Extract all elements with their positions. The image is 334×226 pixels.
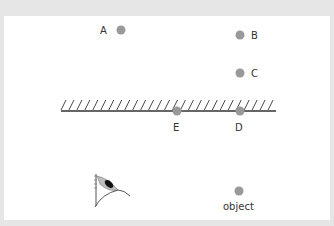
point-label-c: C: [251, 68, 258, 79]
point-label-object: object: [223, 201, 254, 212]
point-label-b: B: [251, 30, 258, 41]
point-object: [235, 187, 244, 196]
point-label-d: D: [235, 122, 243, 133]
point-a: [117, 26, 126, 35]
mirror-diagram: ABCEDobject: [0, 0, 334, 226]
point-d: [236, 107, 245, 116]
point-c: [236, 69, 245, 78]
point-b: [236, 31, 245, 40]
point-label-a: A: [100, 25, 107, 36]
point-e: [173, 107, 182, 116]
point-label-e: E: [173, 122, 179, 133]
eye-icon: [94, 174, 130, 207]
